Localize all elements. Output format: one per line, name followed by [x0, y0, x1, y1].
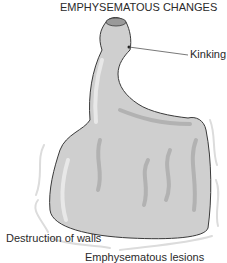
lung-sac — [50, 18, 211, 239]
airway-opening — [106, 18, 126, 26]
label-emphysematous-lesions: Emphysematous lesions — [85, 251, 204, 263]
label-destruction-of-walls: Destruction of walls — [6, 232, 101, 244]
kinking-leader-line — [129, 47, 188, 55]
label-kinking: Kinking — [190, 48, 226, 60]
